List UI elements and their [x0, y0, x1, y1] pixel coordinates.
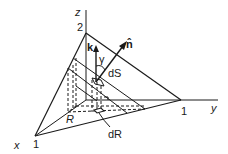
y-axis-label: y [211, 103, 217, 114]
gamma-label: γ [99, 54, 105, 65]
region-r-edge [68, 106, 76, 112]
x-axis [35, 100, 86, 136]
region-r-label: R [66, 114, 74, 125]
ds-label: dS [108, 68, 121, 79]
x-axis-label: x [14, 140, 20, 151]
surface-projection-diagram: z 2 y 1 x 1 k n̂ γ dS R dR [0, 0, 228, 154]
gamma-arc [96, 66, 105, 71]
dr-label: dR [108, 129, 122, 140]
z-tick-label: 2 [77, 22, 83, 33]
area-element-dr [94, 108, 104, 113]
k-arrowhead [93, 45, 99, 52]
z-axis-label: z [75, 7, 81, 18]
x-tick-label: 1 [33, 139, 39, 150]
plane-edge-zy [86, 33, 181, 100]
k-vector-label: k [87, 42, 93, 53]
n-vector-label: n̂ [126, 39, 133, 50]
plane-edge-zx [35, 33, 86, 136]
y-tick-label: 1 [181, 106, 187, 117]
